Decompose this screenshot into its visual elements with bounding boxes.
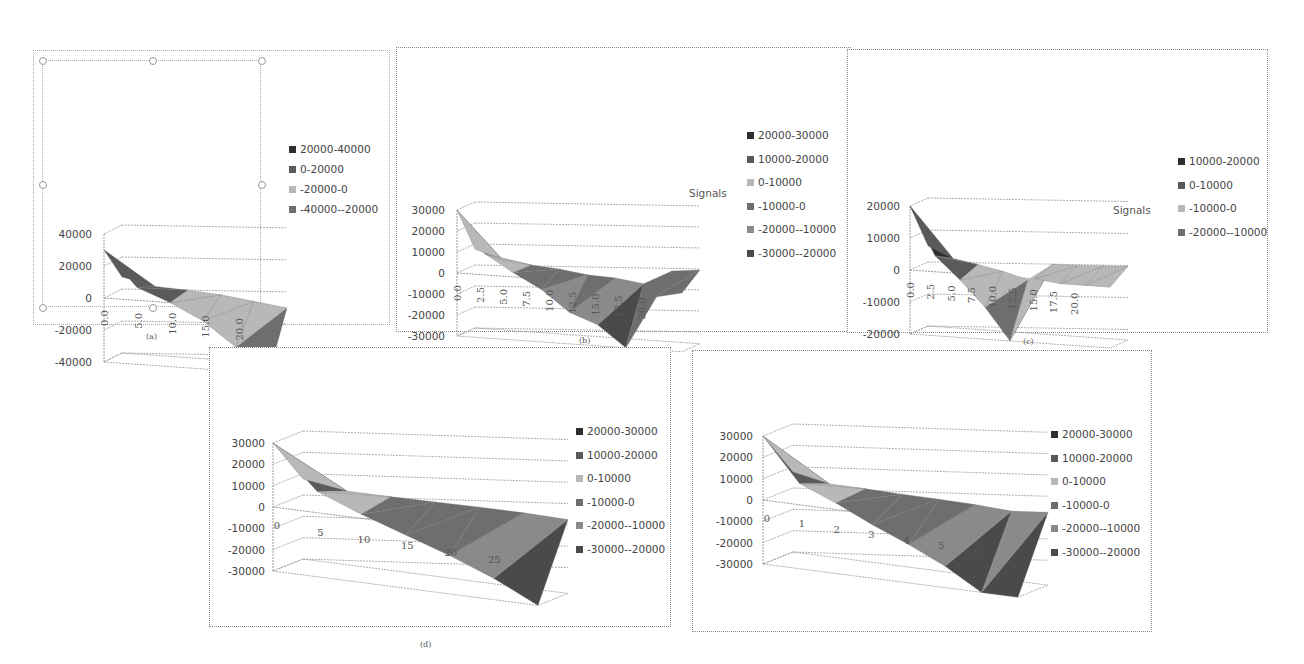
legend-swatch-icon [1178, 205, 1185, 212]
legend-label: 10000-20000 [758, 148, 829, 172]
x-tick-label: 20 [444, 547, 457, 558]
y-tick-label: -20000 [228, 544, 265, 556]
legend-label: 10000-20000 [1062, 447, 1133, 471]
legend-swatch-icon [576, 546, 583, 553]
legend-swatch-icon [1178, 229, 1185, 236]
legend-swatch-icon [576, 522, 583, 529]
legend-b: 20000-3000010000-200000-10000-10000-0-20… [747, 124, 836, 265]
legend-item: 10000-20000 [576, 444, 665, 468]
x-tick-label: 10.0 [167, 313, 178, 335]
legend-swatch-icon [747, 156, 754, 163]
legend-item: -20000--10000 [1051, 517, 1140, 541]
x-tick-label: 0 [764, 513, 770, 524]
legend-label: -20000--10000 [1189, 221, 1267, 245]
legend-swatch-icon [747, 226, 754, 233]
x-tick-label: 3 [868, 529, 874, 540]
legend-item: -40000--20000 [289, 199, 378, 219]
y-tick-label: -10000 [228, 522, 265, 534]
series-axis-label: Signals [1113, 204, 1151, 216]
y-tick-label: 10000 [720, 473, 753, 485]
legend-swatch-icon [747, 179, 754, 186]
legend-item: -20000--10000 [747, 218, 836, 242]
y-tick-label: 20000 [232, 458, 265, 470]
legend-item: -10000-0 [1178, 197, 1267, 221]
legend-swatch-icon [1178, 158, 1185, 165]
y-tick-label: -40000 [55, 356, 92, 368]
legend-swatch-icon [1051, 549, 1058, 556]
x-tick-label: 12.5 [1008, 287, 1019, 309]
y-tick-label: 30000 [720, 430, 753, 442]
legend-label: -30000--20000 [758, 242, 836, 266]
surface-facet [104, 250, 155, 286]
legend-item: -10000-0 [576, 491, 665, 515]
caption-a: (a) [146, 332, 157, 341]
legend-label: 10000-20000 [1189, 150, 1260, 174]
x-tick-label: 20.0 [637, 297, 648, 319]
chart-panel-d: 3000020000100000-10000-20000-30000051015… [209, 347, 671, 627]
y-tick-label: -20000 [408, 309, 445, 321]
legend-item: 10000-20000 [1178, 150, 1267, 174]
legend-swatch-icon [1051, 502, 1058, 509]
legend-item: -30000--20000 [1051, 541, 1140, 565]
y-tick-label: -20000 [55, 324, 92, 336]
legend-label: 0-10000 [587, 467, 631, 491]
legend-d: 20000-3000010000-200000-10000-10000-0-20… [576, 420, 665, 561]
legend-item: 0-10000 [747, 171, 836, 195]
legend-item: -20000--10000 [1178, 221, 1267, 245]
legend-item: 20000-40000 [289, 139, 378, 159]
x-tick-label: 0.0 [99, 310, 110, 326]
x-tick-label: 0.0 [905, 282, 916, 298]
legend-label: -10000-0 [758, 195, 806, 219]
y-tick-label: 0 [438, 267, 445, 279]
y-tick-label: 20000 [867, 200, 900, 212]
legend-label: -10000-0 [587, 491, 635, 515]
x-tick-label: 17.5 [1049, 291, 1060, 313]
y-tick-label: 0 [893, 264, 900, 276]
y-tick-label: 20000 [412, 225, 445, 237]
legend-swatch-icon [1051, 455, 1058, 462]
x-tick-label: 10 [358, 534, 371, 545]
legend-swatch-icon [1051, 431, 1058, 438]
x-tick-label: 5 [317, 527, 323, 538]
y-tick-label: -30000 [228, 565, 265, 577]
x-tick-label: 17.5 [613, 295, 624, 317]
x-tick-label: 5.0 [133, 313, 144, 329]
legend-a: 20000-400000-20000-20000-0-40000--20000 [289, 139, 378, 219]
surface-facet [910, 206, 953, 258]
x-tick-label: 12.5 [567, 292, 578, 314]
legend-label: -10000-0 [1189, 197, 1237, 221]
x-tick-label: 20.0 [1069, 293, 1080, 315]
x-tick-label: 5.0 [946, 285, 957, 301]
y-tick-label: -30000 [716, 558, 753, 570]
x-tick-label: 5.0 [498, 289, 509, 305]
legend-item: 20000-30000 [576, 420, 665, 444]
y-tick-label: -30000 [408, 330, 445, 342]
x-tick-label: 10.0 [544, 290, 555, 312]
x-tick-label: 6 [973, 546, 979, 557]
x-tick-label: 15.0 [1028, 289, 1039, 311]
legend-label: 10000-20000 [587, 444, 658, 468]
legend-swatch-icon [747, 250, 754, 257]
legend-e: 20000-3000010000-200000-10000-10000-0-20… [1051, 423, 1140, 564]
legend-item: -30000--20000 [747, 242, 836, 266]
x-tick-label: 0 [274, 520, 280, 531]
x-tick-label: 15.0 [200, 315, 211, 337]
legend-swatch-icon [747, 203, 754, 210]
x-tick-label: 2.5 [926, 284, 937, 300]
y-tick-label: 10000 [412, 246, 445, 258]
y-tick-label: 0 [258, 501, 265, 513]
x-tick-label: 5 [938, 540, 944, 551]
y-tick-label: 10000 [232, 480, 265, 492]
x-tick-label: 10.0 [987, 286, 998, 308]
x-tick-label: 25 [488, 554, 501, 565]
series-axis-label: Signals [689, 187, 727, 199]
legend-label: -30000--20000 [1062, 541, 1140, 565]
legend-swatch-icon [289, 206, 296, 213]
legend-swatch-icon [289, 166, 296, 173]
legend-item: 20000-30000 [747, 124, 836, 148]
y-tick-label: -10000 [716, 515, 753, 527]
surface-facet [457, 210, 503, 260]
y-tick-label: -20000 [863, 328, 900, 340]
legend-swatch-icon [576, 452, 583, 459]
legend-swatch-icon [1051, 525, 1058, 532]
